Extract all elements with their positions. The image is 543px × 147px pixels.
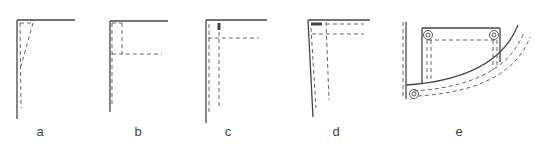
panel-d-label: d	[326, 124, 346, 139]
rivet-icon	[410, 31, 499, 99]
panel-a-drawing	[17, 20, 75, 119]
panel-a-label: a	[30, 124, 50, 139]
panel-c-label: c	[218, 124, 238, 139]
panel-c-drawing	[206, 20, 267, 123]
panel-e-drawing	[403, 22, 530, 99]
panel-e-label: e	[449, 124, 469, 139]
panel-b-drawing	[110, 21, 168, 112]
panel-b-label: b	[128, 124, 148, 139]
panel-d-drawing	[308, 20, 370, 117]
